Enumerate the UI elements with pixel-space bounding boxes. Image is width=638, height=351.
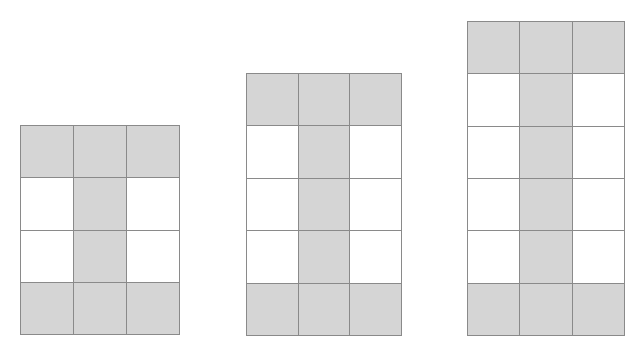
empty-cell <box>468 74 519 125</box>
empty-cell <box>127 178 179 229</box>
shaded-cell <box>299 126 350 177</box>
shaded-cell <box>520 22 571 73</box>
figure-3 <box>467 21 625 336</box>
shaded-cell <box>520 231 571 282</box>
empty-cell <box>573 127 624 178</box>
empty-cell <box>468 179 519 230</box>
shaded-cell <box>468 22 519 73</box>
shaded-cell <box>573 284 624 335</box>
shaded-cell <box>21 126 73 177</box>
shaded-cell <box>350 74 401 125</box>
empty-cell <box>468 231 519 282</box>
shaded-cell <box>520 179 571 230</box>
shaded-cell <box>247 74 298 125</box>
empty-cell <box>21 178 73 229</box>
shaded-cell <box>299 284 350 335</box>
empty-cell <box>468 127 519 178</box>
shaded-cell <box>299 231 350 282</box>
shaded-cell <box>520 74 571 125</box>
shaded-cell <box>299 179 350 230</box>
empty-cell <box>247 126 298 177</box>
shaded-cell <box>299 74 350 125</box>
empty-cell <box>573 231 624 282</box>
shaded-cell <box>520 284 571 335</box>
empty-cell <box>573 74 624 125</box>
shaded-cell <box>520 127 571 178</box>
empty-cell <box>350 231 401 282</box>
empty-cell <box>247 179 298 230</box>
figure-2 <box>246 73 402 336</box>
empty-cell <box>21 231 73 282</box>
shaded-cell <box>74 231 126 282</box>
empty-cell <box>350 179 401 230</box>
shaded-cell <box>573 22 624 73</box>
shaded-cell <box>74 178 126 229</box>
shaded-cell <box>127 126 179 177</box>
shaded-cell <box>21 283 73 334</box>
figure-1 <box>20 125 180 335</box>
empty-cell <box>247 231 298 282</box>
shaded-cell <box>247 284 298 335</box>
shaded-cell <box>127 283 179 334</box>
shaded-cell <box>468 284 519 335</box>
shaded-cell <box>350 284 401 335</box>
empty-cell <box>127 231 179 282</box>
empty-cell <box>573 179 624 230</box>
shaded-cell <box>74 283 126 334</box>
empty-cell <box>350 126 401 177</box>
shaded-cell <box>74 126 126 177</box>
